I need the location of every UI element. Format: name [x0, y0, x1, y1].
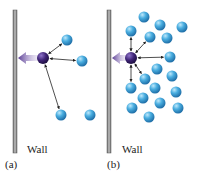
- force-arrow-icon: [18, 52, 38, 64]
- wall: [107, 10, 111, 153]
- gas-particle: [173, 103, 184, 114]
- gas-particle: [56, 110, 67, 121]
- gas-particle: [145, 32, 156, 43]
- gas-particle: [150, 83, 161, 94]
- gas-particle: [152, 64, 163, 75]
- caption-a: (a): [5, 158, 17, 170]
- interaction-arrow: [49, 44, 62, 54]
- wall: [13, 10, 17, 153]
- gas-particle: [139, 12, 150, 23]
- gas-particle: [77, 56, 88, 67]
- caption-b: (b): [107, 158, 120, 170]
- gas-particle: [177, 22, 188, 33]
- gas-particle: [165, 52, 176, 63]
- gas-particle: [126, 83, 137, 94]
- colliding-particle: [37, 52, 49, 64]
- gas-particle: [155, 20, 166, 31]
- gas-particle: [144, 112, 155, 123]
- gas-particle: [138, 93, 149, 104]
- colliding-particle: [125, 52, 137, 64]
- gas-particle: [140, 74, 151, 85]
- wall-label-a: Wall: [27, 143, 48, 155]
- wall-label-b: Wall: [122, 143, 143, 155]
- panel-a: [13, 10, 96, 153]
- gas-particle: [167, 71, 178, 82]
- force-arrow-icon: [112, 52, 126, 64]
- gas-particle: [162, 33, 173, 44]
- interaction-arrow: [45, 65, 59, 109]
- gas-particle: [85, 110, 96, 121]
- interaction-arrow: [136, 42, 146, 53]
- gas-particle: [171, 87, 182, 98]
- panel-b: [107, 10, 188, 153]
- interaction-arrow: [50, 59, 76, 61]
- interaction-arrow: [138, 57, 164, 58]
- gas-particle: [126, 26, 137, 37]
- interaction-arrow: [135, 64, 142, 74]
- gas-particle: [62, 35, 73, 46]
- gas-particle: [127, 103, 138, 114]
- gas-particle: [155, 98, 166, 109]
